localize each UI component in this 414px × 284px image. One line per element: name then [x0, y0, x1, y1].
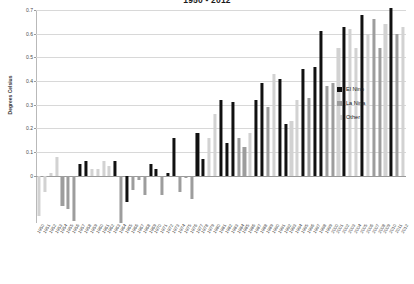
bar[interactable]: [108, 166, 111, 175]
legend-item[interactable]: El Nino: [337, 82, 409, 96]
bar[interactable]: [149, 164, 152, 176]
legend-item[interactable]: La Nina: [337, 96, 409, 110]
bar[interactable]: [143, 176, 146, 195]
y-tick-label: 0.2: [26, 125, 33, 131]
bar[interactable]: [255, 100, 258, 176]
bar[interactable]: [243, 147, 246, 175]
legend-swatch-icon: [337, 115, 342, 120]
bar[interactable]: [73, 176, 76, 221]
bar[interactable]: [266, 107, 269, 176]
bar[interactable]: [67, 176, 70, 209]
bar[interactable]: [131, 176, 134, 190]
bar[interactable]: [278, 79, 281, 176]
bar[interactable]: [161, 176, 164, 195]
bar[interactable]: [261, 83, 264, 175]
bar[interactable]: [102, 161, 105, 175]
bar[interactable]: [208, 138, 211, 176]
y-tick-label: 0.7: [26, 7, 33, 13]
bar[interactable]: [172, 138, 175, 176]
y-tick-label: 0: [30, 173, 33, 179]
bar[interactable]: [296, 100, 299, 176]
bar[interactable]: [178, 176, 181, 193]
bar[interactable]: [272, 74, 275, 176]
bar[interactable]: [319, 31, 322, 175]
bar[interactable]: [302, 69, 305, 176]
bar[interactable]: [202, 159, 205, 176]
bar[interactable]: [214, 114, 217, 176]
bar[interactable]: [290, 121, 293, 175]
bar[interactable]: [120, 176, 123, 223]
bar[interactable]: [78, 164, 81, 176]
bar[interactable]: [90, 169, 93, 176]
bar[interactable]: [313, 67, 316, 176]
temperature-anomaly-bar-chart: 1950 - 2012 Degrees Celsius 0.70.60.50.4…: [0, 0, 414, 284]
y-tick-label: 0.4: [26, 78, 33, 84]
legend-label: La Nina: [346, 100, 365, 106]
bar[interactable]: [196, 133, 199, 176]
y-tick-label: 0.5: [26, 54, 33, 60]
bar[interactable]: [37, 176, 40, 216]
y-tick-label: 0.3: [26, 102, 33, 108]
bar[interactable]: [84, 161, 87, 175]
bar[interactable]: [308, 98, 311, 176]
bar[interactable]: [190, 176, 193, 200]
legend-label: El Nino: [346, 86, 364, 92]
legend-label: Other: [346, 114, 360, 120]
chart-title: 1950 - 2012: [0, 0, 414, 5]
y-axis-title: Degrees Celsius: [7, 60, 13, 130]
bar[interactable]: [225, 143, 228, 176]
bar[interactable]: [184, 176, 187, 178]
bar[interactable]: [155, 169, 158, 176]
bar[interactable]: [96, 169, 99, 176]
bar[interactable]: [55, 157, 58, 176]
bar[interactable]: [237, 138, 240, 176]
bar[interactable]: [249, 133, 252, 176]
bar[interactable]: [61, 176, 64, 207]
legend-item[interactable]: Other: [337, 110, 409, 124]
bar[interactable]: [137, 176, 140, 181]
bar[interactable]: [167, 173, 170, 175]
bar[interactable]: [219, 100, 222, 176]
y-tick-label: 0.6: [26, 31, 33, 37]
bar[interactable]: [43, 176, 46, 193]
x-axis-labels: 1950195119521953195419551956195719581959…: [36, 223, 406, 278]
y-tick-label: 0.1: [26, 149, 33, 155]
legend-swatch-icon: [337, 101, 342, 106]
bar[interactable]: [231, 102, 234, 175]
bar[interactable]: [325, 86, 328, 176]
bar[interactable]: [49, 173, 52, 175]
bar[interactable]: [331, 83, 334, 175]
bar[interactable]: [284, 124, 287, 176]
bar[interactable]: [125, 176, 128, 202]
bar[interactable]: [114, 161, 117, 175]
chart-legend: El NinoLa NinaOther: [337, 82, 409, 124]
legend-swatch-icon: [337, 87, 342, 92]
